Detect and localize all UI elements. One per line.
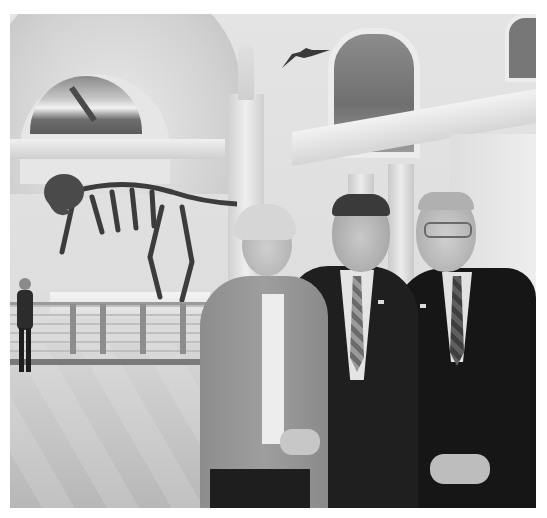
railing-post	[100, 304, 106, 354]
woman-hands	[280, 429, 320, 455]
railing-post	[140, 304, 146, 354]
photograph	[10, 14, 536, 508]
lapel-pin-icon	[420, 304, 426, 308]
right-man-hair	[418, 192, 474, 210]
far-right-arch	[505, 14, 536, 82]
lapel-pin-icon	[378, 300, 384, 304]
woman-blouse	[262, 294, 284, 444]
statue	[238, 44, 254, 100]
railing-post	[70, 304, 76, 354]
railing-post	[180, 304, 186, 354]
woman-skirt	[210, 469, 310, 508]
right-man-hands	[430, 454, 490, 484]
t-rex-skeleton-icon	[32, 162, 237, 302]
balcony-ledge	[10, 139, 225, 159]
glasses-icon	[424, 222, 472, 238]
pterosaur-model-icon	[282, 46, 332, 68]
museum-visitor-icon	[14, 276, 36, 374]
center-man-hair	[332, 194, 390, 216]
